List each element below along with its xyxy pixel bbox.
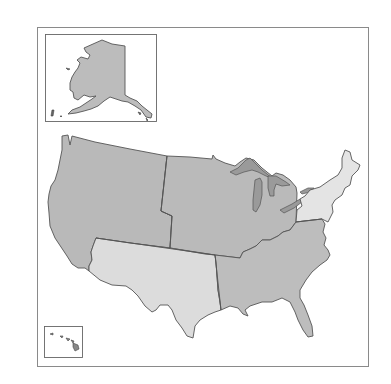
region-alaska[interactable] xyxy=(68,40,152,118)
hawaii-inset-box xyxy=(45,327,83,358)
alaska-inset xyxy=(46,35,157,122)
us-regions-map xyxy=(0,0,391,384)
region-northeast[interactable] xyxy=(296,150,360,222)
hawaii-inset xyxy=(45,327,83,358)
region-hawaii[interactable] xyxy=(50,333,79,351)
